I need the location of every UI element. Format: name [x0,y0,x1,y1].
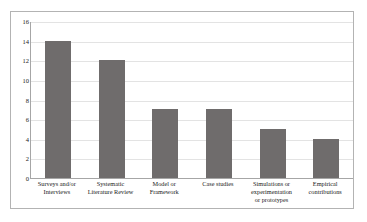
bar[interactable] [152,109,178,178]
x-axis-label-line: Empirical [299,180,351,188]
x-axis-label-line: experimentation [246,188,298,196]
x-axis-label-line: Case studies [192,180,244,188]
x-axis-category-label: Empiricalcontributions [298,180,352,196]
bar[interactable] [206,109,232,178]
plot-area [30,22,353,179]
bars-container [31,22,353,178]
bar-slot [192,22,246,178]
y-axis-tick-label: 2 [26,156,29,163]
x-axis-category-labels: Surveys and/orInterviewsSystematicLitera… [30,180,352,204]
bar-slot [299,22,353,178]
y-axis-tick-labels: 1614121086420 [13,22,29,178]
x-axis-label-line: Framework [138,188,190,196]
x-axis-category-label: SystematicLiterature Review [84,180,138,196]
bar-slot [246,22,300,178]
x-axis-label-line: Surveys and/or [31,180,83,188]
x-axis-category-label: Model orFramework [137,180,191,196]
bar-slot [85,22,139,178]
x-axis-label-line: Simulations or [246,180,298,188]
y-axis-tick-label: 12 [23,58,30,65]
y-axis-tick-label: 14 [23,38,30,45]
y-axis-tick-label: 6 [26,117,29,124]
y-axis-tick-label: 8 [26,97,29,104]
plot-wrapper: 1614121086420 Surveys and/orInterviewsSy… [11,12,353,208]
x-axis-label-line: Systematic [85,180,137,188]
x-axis-category-label: Simulations orexperimentationor prototyp… [245,180,299,204]
bar-slot [31,22,85,178]
x-axis-label-line: Literature Review [85,188,137,196]
bar[interactable] [313,139,339,178]
x-axis-category-label: Case studies [191,180,245,188]
y-axis-tick-label: 4 [26,137,29,144]
x-axis-category-label: Surveys and/orInterviews [30,180,84,196]
bar-chart-figure: 1614121086420 Surveys and/orInterviewsSy… [10,11,354,209]
bar[interactable] [260,129,286,178]
bar[interactable] [99,60,125,178]
x-axis-label-line: Interviews [31,188,83,196]
y-axis-tick-label: 0 [26,176,29,183]
x-axis-label-line: Model or [138,180,190,188]
y-axis-tick-label: 16 [23,19,30,26]
bar[interactable] [45,41,71,178]
x-axis-label-line: or prototypes [246,196,298,204]
x-axis-label-line: contributions [299,188,351,196]
bar-slot [138,22,192,178]
y-axis-tick-label: 10 [23,78,30,85]
